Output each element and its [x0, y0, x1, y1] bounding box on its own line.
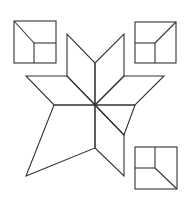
square-top-right: [135, 22, 176, 63]
diamond-right: [95, 76, 164, 105]
diamond-lower-right: [95, 105, 124, 176]
kite-lower-left: [26, 105, 95, 176]
square-top-left: [14, 21, 56, 63]
diamond-lower-right-2: [95, 105, 135, 135]
inner-diagonal: [14, 21, 34, 43]
inner-diagonal: [155, 168, 177, 189]
star: [26, 34, 164, 176]
inner-diagonal: [155, 22, 176, 43]
diamond-upper-right: [95, 34, 124, 105]
quilt-diagram: Quilt block star pattern with three corn…: [0, 0, 188, 202]
quilt-star-svg: [0, 0, 188, 202]
square-bottom-right: [135, 147, 177, 189]
diamond-left: [26, 76, 95, 105]
diamond-upper-left: [67, 34, 95, 105]
